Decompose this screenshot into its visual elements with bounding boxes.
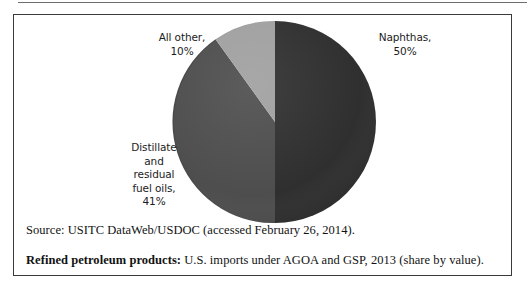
figure-source-text: Source: USITC DataWeb/USDOC (accessed Fe… [26,223,355,237]
page-top-rule [18,2,527,3]
pie-label-distillate-and-residual-fuel-oils: Distillate and residual fuel oils, 41% [102,141,206,209]
pie-chart-area: All other, 10% Naphthas, 50% Distillate … [14,15,511,220]
figure-caption-rest: U.S. imports under AGOA and GSP, 2013 (s… [181,253,484,267]
figure-caption: Refined petroleum products: U.S. imports… [26,253,504,268]
figure-caption-lead: Refined petroleum products: [26,253,181,267]
pie-label-naphthas: Naphthas, 50% [340,31,470,58]
figure-source-note: Source: USITC DataWeb/USDOC (accessed Fe… [26,223,496,238]
pie-label-all-other: All other, 10% [122,31,242,58]
figure-box: All other, 10% Naphthas, 50% Distillate … [13,14,512,276]
